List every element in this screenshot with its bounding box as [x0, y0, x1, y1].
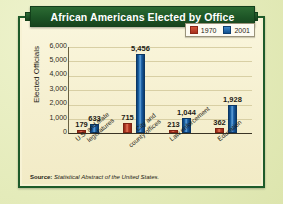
legend-item-2001: 2001 [223, 26, 250, 34]
source-text: Statistical Abstract of the United State… [54, 174, 159, 180]
y-tick-label-3000: 3,000 [34, 85, 67, 93]
x-axis-category-labels: U.S. and state legislatures City and cou… [68, 135, 252, 179]
legend-item-1970: 1970 [190, 26, 217, 34]
y-tick-label-5000: 5,000 [34, 56, 67, 64]
chart-figure: 1970 2001 Elected Officials 6,000 5,000 … [0, 0, 283, 204]
source-note: Source: Statistical Abstract of the Unit… [30, 174, 159, 180]
source-prefix: Source: [30, 174, 52, 180]
chart-title: African Americans Elected by Office [50, 11, 234, 23]
y-tick-label-2000: 2,000 [34, 99, 67, 107]
legend-swatch-2001 [223, 26, 231, 34]
y-tick-label-1000: 1,000 [34, 114, 67, 122]
chart-panel: 1970 2001 Elected Officials 6,000 5,000 … [18, 16, 265, 188]
legend-label-1970: 1970 [201, 27, 217, 34]
legend-swatch-1970 [190, 26, 198, 34]
chart-legend: 1970 2001 [185, 23, 255, 37]
bar-value-2001-education: 1,928 [223, 95, 242, 104]
bar-value-1970-city-and-county-offices: 715 [121, 113, 134, 122]
y-tick-label-6000: 6,000 [34, 42, 67, 50]
bar-value-1970-education: 362 [213, 118, 226, 127]
bar-value-2001-city-and-county-offices: 5,456 [131, 44, 150, 53]
y-axis-labels: 6,000 5,000 4,000 3,000 2,000 1,000 0 [34, 42, 67, 139]
y-tick-label-0: 0 [34, 128, 67, 136]
y-tick-label-4000: 4,000 [34, 70, 67, 78]
legend-label-2001: 2001 [234, 27, 250, 34]
